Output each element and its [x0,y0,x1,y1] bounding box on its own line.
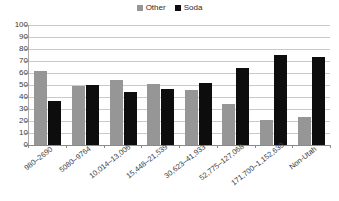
bar-group [67,25,105,145]
bar-other [110,80,123,145]
chart-legend: Other Soda [0,2,339,14]
bar-other [298,117,311,145]
bar-other [72,86,85,145]
bar-soda [199,83,212,145]
bar-other [147,84,160,145]
bar-group [104,25,142,145]
x-axis-labels: 980–26905080–976410,014–13,00615,448–21,… [28,147,330,201]
bar-other [260,120,273,145]
legend-entry-soda: Soda [175,4,203,12]
legend-label-soda: Soda [184,4,203,12]
bar-group [142,25,180,145]
bar-other [185,90,198,145]
bar-soda [86,85,99,145]
legend-swatch-other [137,5,143,11]
bar-soda [312,57,325,145]
bar-group [292,25,330,145]
x-tick-mark [330,145,331,148]
plot-area [28,25,330,146]
bar-soda [236,68,249,145]
x-tick-label: Non-Utah [288,146,318,172]
bar-group [29,25,67,145]
bar-group [180,25,218,145]
x-tick-label: 980–2690 [23,145,54,171]
x-tick-label: 5080–9764 [58,145,92,174]
bar-other [222,104,235,145]
bar-chart: Other Soda 1009080706050403020100 980–26… [0,0,339,201]
bar-group [217,25,255,145]
bar-group [255,25,293,145]
bar-groups [29,25,330,145]
y-axis: 1009080706050403020100 [0,25,28,146]
bar-soda [124,92,137,145]
legend-entry-other: Other [137,4,166,12]
bar-soda [274,55,287,145]
legend-label-other: Other [146,4,166,12]
bar-soda [161,89,174,145]
legend-swatch-soda [175,5,181,11]
bar-soda [48,101,61,145]
bar-other [34,71,47,145]
